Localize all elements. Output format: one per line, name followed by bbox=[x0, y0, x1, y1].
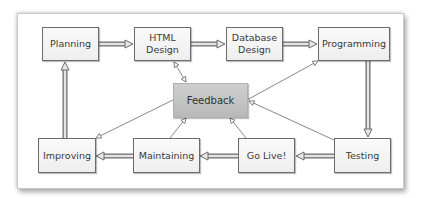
node-database-design-label: Database Design bbox=[232, 32, 277, 56]
node-database-design: Database Design bbox=[226, 27, 283, 61]
node-go-live-label: Go Live! bbox=[247, 150, 286, 162]
node-programming-label: Programming bbox=[322, 38, 386, 50]
node-programming: Programming bbox=[318, 27, 390, 61]
node-feedback-label: Feedback bbox=[187, 95, 235, 107]
node-maintaining-label: Maintaining bbox=[139, 150, 195, 162]
node-improving: Improving bbox=[38, 138, 96, 173]
node-testing: Testing bbox=[334, 138, 391, 173]
node-planning: Planning bbox=[42, 27, 99, 61]
node-go-live: Go Live! bbox=[238, 138, 295, 173]
node-testing-label: Testing bbox=[346, 150, 379, 162]
node-planning-label: Planning bbox=[50, 38, 91, 50]
node-feedback: Feedback bbox=[173, 83, 248, 118]
node-html-design: HTML Design bbox=[134, 27, 191, 61]
node-maintaining: Maintaining bbox=[133, 138, 200, 173]
node-html-design-label: HTML Design bbox=[146, 32, 179, 56]
node-improving-label: Improving bbox=[43, 150, 91, 162]
